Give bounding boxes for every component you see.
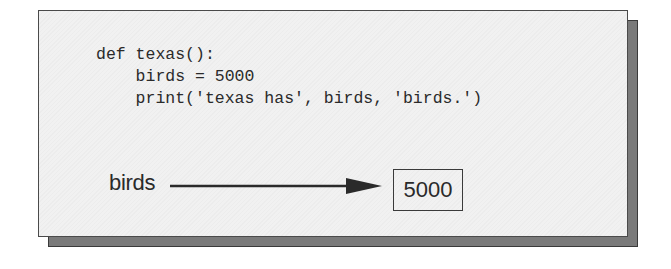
code-line: birds = 5000 bbox=[96, 67, 254, 86]
variable-name-label: birds bbox=[109, 170, 155, 196]
code-line: print('texas has', birds, 'birds.') bbox=[96, 89, 482, 108]
variable-value-box: 5000 bbox=[393, 169, 463, 211]
reference-arrow-icon bbox=[170, 178, 386, 194]
code-block: def texas(): birds = 5000 print('texas h… bbox=[96, 44, 482, 110]
code-line: def texas(): bbox=[96, 45, 215, 64]
